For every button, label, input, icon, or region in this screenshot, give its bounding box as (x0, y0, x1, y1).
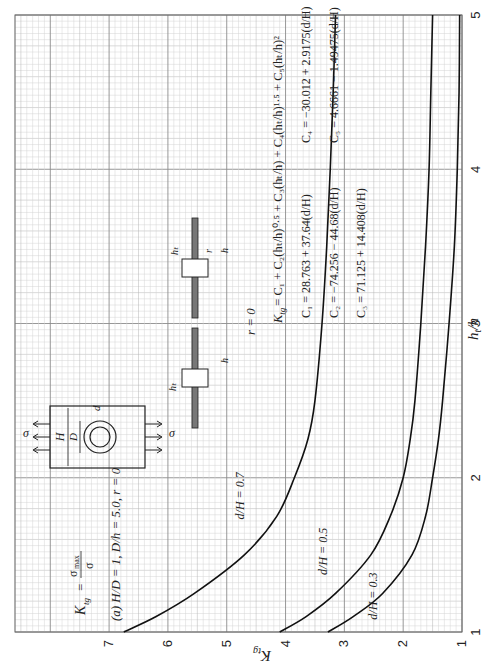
rotated-chart-stage: 12345 1234567 ht/h Ktg (a)H/D = 1, D/h =… (0, 0, 494, 663)
sigma-denominator: σ (82, 562, 96, 569)
sigma-label-bottom: σ (169, 426, 176, 440)
ht-label-1: hₜ (167, 382, 178, 391)
sigma-max: σ (66, 570, 80, 577)
c2-formula: C₂ = −74.256 − 44.68(d/H) (327, 188, 341, 318)
y-tick-label: 6 (160, 640, 175, 647)
c4-formula: C₄ = −30.012 + 2.9175(d/H) (299, 7, 313, 143)
y-tick-label: 2 (395, 640, 410, 647)
ktg-subscript: tg (81, 597, 91, 605)
hole-circle (90, 427, 110, 447)
grid (15, 15, 462, 632)
ktg-formula: Ktg= C₁ + C₂(hₜ/h)⁰·⁵ + C₃(hₜ/h) + C₄(hₜ… (271, 36, 287, 324)
stress-arrows-right (145, 421, 162, 453)
y-tick-label: 5 (219, 640, 234, 647)
x-tick-label: 4 (468, 166, 483, 173)
y-axis-label: Ktg (253, 646, 272, 663)
sigma-max-subscript: max (72, 555, 81, 569)
y-tick-label: 1 (454, 640, 469, 647)
chart-title: (a)H/D = 1, D/h = 5.0, r = 0 (108, 467, 123, 621)
sigma-label-top: σ (23, 426, 30, 440)
ktg-symbol: K (73, 605, 88, 616)
c3-formula: C₃ = 71.125 + 14.408(d/H) (354, 188, 368, 318)
h-label-1: h (219, 358, 230, 363)
curve-label-0.5: d/H = 0.5 (316, 528, 330, 575)
r-zero-label: r = 0 (243, 308, 258, 335)
plate-front-view: σ σ H D d (23, 405, 176, 468)
c1-formula: C₁ = 28.763 + 37.64(d/H) (299, 194, 313, 318)
boss-outer-circle (84, 421, 116, 453)
y-tick-label: 7 (101, 640, 116, 647)
c5-formula: C₅ = 4.6661 − 1.49475(d/H) (327, 7, 341, 143)
section-view-1: h hₜ (167, 328, 230, 428)
h-label-2: h (219, 248, 230, 253)
curve-label-0.3: d/H = 0.3 (366, 573, 380, 620)
x-tick-label: 1 (468, 628, 483, 635)
boss-section (182, 369, 208, 387)
chart: 12345 1234567 ht/h Ktg (a)H/D = 1, D/h =… (0, 0, 494, 663)
y-tick-label: 4 (278, 640, 293, 647)
D-label: D (67, 433, 79, 442)
d-label: d (90, 405, 102, 411)
y-tick-labels: 1234567 (101, 640, 469, 647)
equals-sign: = (73, 584, 88, 591)
ht-label-2: hₜ (169, 246, 180, 255)
y-tick-label: 3 (336, 640, 351, 647)
x-tick-label: 5 (468, 11, 483, 18)
r-label: r (203, 249, 214, 253)
stress-arrows-left (33, 421, 50, 453)
curve-label-0.7: d/H = 0.7 (233, 471, 247, 519)
boss-section (182, 259, 208, 277)
H-label: H (53, 431, 67, 442)
x-axis-label: ht/h (465, 318, 483, 340)
x-tick-label: 2 (468, 474, 483, 481)
